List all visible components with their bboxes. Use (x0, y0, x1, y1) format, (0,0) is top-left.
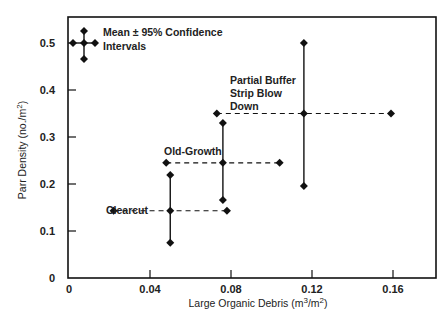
data-point-marker-icon (300, 110, 308, 118)
x-tick-label: 0.04 (139, 283, 161, 295)
series-label: Strip Blow (230, 87, 283, 99)
x-tick-label: 0.08 (220, 283, 241, 295)
x-tick-label: 0.16 (382, 283, 403, 295)
data-point-marker-icon (223, 207, 231, 215)
data-point-marker-icon (166, 207, 174, 215)
data-point-marker-icon (387, 110, 395, 118)
y-tick-label: 0.5 (40, 37, 55, 49)
series-clearcut: Clearcut (106, 171, 231, 247)
y-tick-label: 0 (49, 272, 55, 284)
y-axis-title: Parr Density (no./m2) (15, 101, 28, 199)
data-point-marker-icon (219, 196, 227, 204)
y-axis-ticks: 00.10.20.30.40.5 (40, 37, 76, 284)
chart: 00.040.080.120.16 00.10.20.30.40.5 Large… (0, 0, 448, 324)
series-label: Down (230, 100, 259, 112)
y-tick-label: 0.3 (40, 131, 55, 143)
plot-frame (68, 17, 436, 278)
legend: Mean ± 95% Confidence Intervals (69, 26, 223, 63)
series-label: Old-Growth (164, 145, 222, 157)
x-tick-label: 0 (66, 283, 72, 295)
data-point-marker-icon (219, 159, 227, 167)
data-point-marker-icon (162, 159, 170, 167)
data-point-marker-icon (300, 39, 308, 47)
legend-text-line2: Intervals (103, 40, 146, 52)
legend-marker-icon (80, 27, 88, 35)
y-tick-label: 0.2 (40, 178, 55, 190)
y-tick-label: 0.1 (40, 225, 55, 237)
data-point-marker-icon (276, 159, 284, 167)
series-label: Partial Buffer (230, 74, 296, 86)
data-point-marker-icon (300, 182, 308, 190)
y-tick-label: 0.4 (40, 84, 56, 96)
series-label: Clearcut (106, 204, 149, 216)
data-point-marker-icon (166, 171, 174, 179)
x-axis-title: Large Organic Debris (m3/m2) (188, 296, 327, 309)
legend-text-line1: Mean ± 95% Confidence (103, 26, 223, 38)
data-point-marker-icon (213, 110, 221, 118)
data-point-marker-icon (219, 119, 227, 127)
x-axis-ticks: 00.040.080.120.16 (66, 270, 404, 295)
series-old-growth: Old-Growth (162, 119, 283, 204)
x-tick-label: 0.12 (301, 283, 322, 295)
series-partial-buffer-strip-blow-down: Partial BufferStrip BlowDown (213, 39, 395, 190)
series-layer: ClearcutOld-GrowthPartial BufferStrip Bl… (106, 39, 395, 247)
data-point-marker-icon (166, 239, 174, 247)
